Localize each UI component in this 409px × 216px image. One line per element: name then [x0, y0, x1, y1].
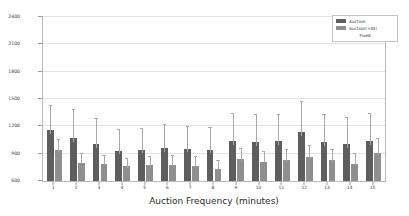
x-tick-label: 8: [212, 185, 215, 190]
y-tick-label: 900: [0, 150, 20, 155]
error-bar-cap: [194, 156, 197, 157]
error-bar: [195, 157, 196, 166]
error-bar-cap: [353, 153, 356, 154]
error-bar-cap: [376, 138, 379, 139]
error-bar: [187, 127, 188, 153]
x-tick-label: 13: [324, 185, 330, 190]
error-bar: [50, 106, 51, 133]
error-bar-cap: [125, 158, 128, 159]
error-bar: [142, 129, 143, 153]
x-tick-label: 5: [143, 185, 146, 190]
x-tick-label: 15: [370, 185, 376, 190]
bar: [138, 150, 145, 181]
gridline: [43, 71, 385, 72]
error-bar: [301, 102, 302, 137]
error-bar: [218, 161, 219, 170]
error-bar-cap: [186, 126, 189, 127]
bar: [192, 166, 199, 181]
error-bar: [164, 125, 165, 151]
x-tick-label: 1: [52, 185, 55, 190]
bar: [184, 149, 191, 181]
bar: [161, 148, 168, 181]
error-bar-cap: [368, 113, 371, 114]
bar: [306, 157, 313, 181]
x-axis-title: Auction Frequency (minutes): [42, 196, 386, 206]
bar: [275, 141, 282, 181]
error-bar: [104, 156, 105, 165]
x-tick-label: 4: [120, 185, 123, 190]
error-bar-cap: [49, 105, 52, 106]
error-bar: [264, 152, 265, 163]
error-bar: [96, 119, 97, 148]
legend-label: Fixed: [359, 33, 370, 38]
error-bar: [324, 115, 325, 146]
error-bar-cap: [94, 118, 97, 119]
error-bar: [233, 114, 234, 145]
bar: [343, 144, 350, 181]
gridline: [43, 125, 385, 126]
bar: [366, 141, 373, 181]
bar: [123, 166, 130, 181]
bar: [70, 138, 77, 181]
error-bar-cap: [57, 139, 60, 140]
error-bar-cap: [102, 155, 105, 156]
x-tick-label: 10: [256, 185, 262, 190]
y-tick-mark: [38, 71, 42, 72]
error-bar-cap: [163, 124, 166, 125]
y-tick-label: 2400: [0, 14, 20, 19]
bar: [298, 132, 305, 181]
error-bar: [119, 130, 120, 155]
y-tick-mark: [38, 153, 42, 154]
bar: [55, 150, 62, 181]
error-bar: [58, 140, 59, 152]
error-bar: [278, 115, 279, 146]
legend-label: Auction: [349, 19, 365, 24]
bar: [374, 153, 381, 181]
error-bar-cap: [277, 114, 280, 115]
bar: [260, 162, 267, 181]
legend-item: Auction(+IG): [336, 25, 394, 31]
error-bar-cap: [254, 114, 257, 115]
y-tick-label: 2100: [0, 41, 20, 46]
error-bar: [370, 114, 371, 145]
y-tick-mark: [38, 16, 42, 17]
error-bar: [256, 115, 257, 145]
bar: [47, 130, 54, 181]
legend-item: Auction: [336, 18, 394, 24]
x-tick-label: 6: [166, 185, 169, 190]
error-bar: [355, 154, 356, 165]
bar: [283, 160, 290, 181]
bar: [229, 141, 236, 181]
y-tick-mark: [38, 98, 42, 99]
y-tick-label: 600: [0, 178, 20, 183]
x-tick-label: 11: [279, 185, 285, 190]
error-bar-cap: [239, 148, 242, 149]
bar: [115, 151, 122, 181]
bar: [329, 160, 336, 181]
error-bar-cap: [330, 149, 333, 150]
bar: [252, 142, 259, 181]
bar: [215, 169, 222, 181]
error-bar-cap: [117, 129, 120, 130]
error-bar-cap: [140, 128, 143, 129]
bar: [78, 163, 85, 181]
error-bar: [309, 146, 310, 159]
error-bar: [81, 154, 82, 164]
error-bar-cap: [345, 117, 348, 118]
error-bar-cap: [216, 160, 219, 161]
y-tick-label: 1500: [0, 96, 20, 101]
legend-item: Fixed: [336, 32, 394, 38]
error-bar-cap: [322, 114, 325, 115]
error-bar: [210, 128, 211, 153]
error-bar-cap: [308, 145, 311, 146]
error-bar-cap: [300, 101, 303, 102]
error-bar-cap: [231, 113, 234, 114]
bar: [207, 150, 214, 181]
legend-swatch: [336, 19, 346, 23]
legend-swatch: [336, 26, 346, 30]
bar: [169, 165, 176, 181]
error-bar-cap: [72, 109, 75, 110]
error-bar-cap: [148, 156, 151, 157]
error-bar: [241, 149, 242, 161]
error-bar: [347, 118, 348, 148]
